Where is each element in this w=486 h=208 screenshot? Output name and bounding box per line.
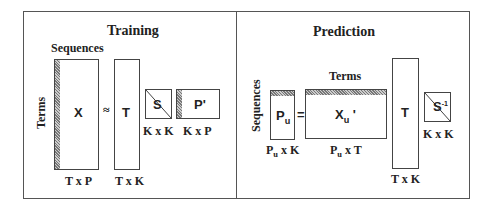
matrix-xu-prime-dims: Pu x T: [330, 143, 362, 159]
panel-divider: [236, 11, 237, 199]
hatch-row: [271, 91, 294, 96]
matrix-s-inverse-dims: K x K: [423, 127, 454, 142]
prediction-terms-label: Terms: [329, 69, 361, 84]
matrix-x: X: [54, 59, 99, 170]
matrix-s-inverse: S-1: [424, 92, 451, 122]
matrix-xu-prime: Xu ': [305, 89, 387, 139]
matrix-s-inverse-label: S-1: [433, 99, 448, 114]
matrix-pu-dims: Pu x K: [266, 143, 299, 159]
matrix-t-prediction-label: T: [401, 105, 409, 120]
training-sequences-label: Sequences: [51, 41, 104, 56]
equals-symbol: =: [297, 107, 305, 122]
matrix-p-prime: P': [176, 89, 220, 119]
matrix-s: S: [145, 89, 172, 119]
matrix-x-dims: T x P: [65, 174, 92, 189]
matrix-t-prediction-dims: T x K: [391, 172, 420, 187]
hatch-column: [55, 60, 60, 169]
hatch-row: [306, 90, 386, 95]
matrix-p-prime-label: P': [194, 97, 206, 112]
matrix-t-dims: T x K: [115, 174, 144, 189]
matrix-p-prime-dims: K x P: [183, 124, 212, 139]
prediction-sequences-label: Sequences: [249, 79, 264, 132]
matrix-t: T: [114, 59, 140, 170]
matrix-t-prediction: T: [392, 58, 419, 169]
matrix-s-label: S: [153, 97, 162, 112]
matrix-pu: Pu: [270, 90, 295, 140]
matrix-pu-label: Pu: [276, 108, 290, 126]
prediction-title: Prediction: [313, 24, 375, 40]
training-title: Training: [107, 23, 159, 39]
hatch-column: [177, 90, 182, 118]
matrix-xu-prime-label: Xu ': [335, 107, 356, 125]
matrix-t-label: T: [122, 105, 130, 120]
matrix-s-dims: K x K: [143, 124, 174, 139]
matrix-x-label: X: [74, 105, 83, 120]
approx-symbol: ≈: [103, 103, 110, 118]
training-terms-label: Terms: [34, 97, 49, 129]
